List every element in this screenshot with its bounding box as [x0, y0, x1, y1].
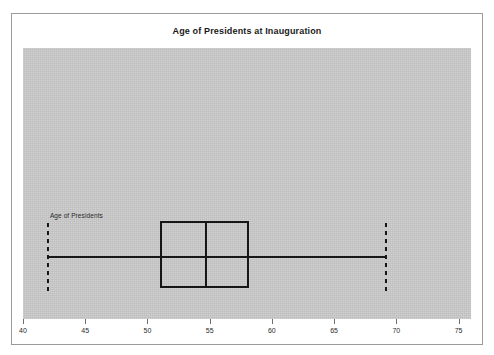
x-axis-tick: [23, 319, 24, 324]
x-axis-tick-label: 60: [268, 327, 276, 334]
x-axis-tick-label: 65: [330, 327, 338, 334]
x-axis-tick-label: 50: [144, 327, 152, 334]
boxplot-min-whisker-cap: [47, 223, 49, 291]
boxplot-group: Age of Presidents: [23, 48, 471, 319]
x-axis-tick: [147, 319, 148, 324]
x-axis-tick-label: 70: [392, 327, 400, 334]
x-axis: 4045505560657075: [23, 319, 471, 349]
boxplot-series-label: Age of Presidents: [50, 212, 103, 219]
x-axis-tick: [459, 319, 460, 324]
x-axis-tick-label: 75: [455, 327, 463, 334]
x-axis-tick: [272, 319, 273, 324]
chart-panel: Age of Presidents at Inauguration Age of…: [11, 13, 483, 345]
plot-area: Age of Presidents: [23, 48, 471, 319]
chart-title: Age of Presidents at Inauguration: [12, 26, 482, 36]
x-axis-tick: [210, 319, 211, 324]
x-axis-tick-label: 45: [81, 327, 89, 334]
boxplot-median-line: [205, 221, 207, 288]
boxplot-max-whisker-cap: [385, 223, 387, 291]
x-axis-tick: [85, 319, 86, 324]
x-axis-tick-label: 55: [206, 327, 214, 334]
x-axis-tick-label: 40: [19, 327, 27, 334]
x-axis-tick: [396, 319, 397, 324]
x-axis-tick: [334, 319, 335, 324]
